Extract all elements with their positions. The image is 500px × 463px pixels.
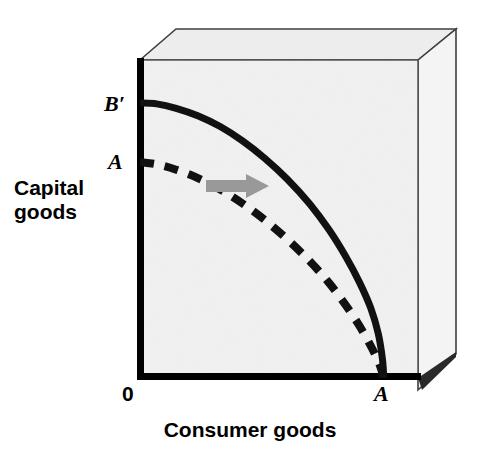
label-a-y-intercept: A bbox=[108, 149, 123, 175]
x-axis bbox=[137, 373, 421, 380]
x-axis-title: Consumer goods bbox=[0, 418, 500, 442]
y-axis-title-line1: Capital bbox=[14, 176, 84, 199]
label-origin: 0 bbox=[122, 382, 134, 406]
box-top-face bbox=[140, 29, 456, 60]
y-axis-title-line2: goods bbox=[14, 200, 77, 223]
ppf-diagram-canvas bbox=[0, 0, 500, 463]
ppf-figure: Capitalgoods Consumer goods B′ A A 0 bbox=[0, 0, 500, 463]
y-axis-title: Capitalgoods bbox=[14, 176, 84, 223]
box-right-face bbox=[418, 29, 456, 390]
label-b-prime: B′ bbox=[104, 91, 125, 117]
label-a-x-intercept: A bbox=[374, 381, 389, 407]
